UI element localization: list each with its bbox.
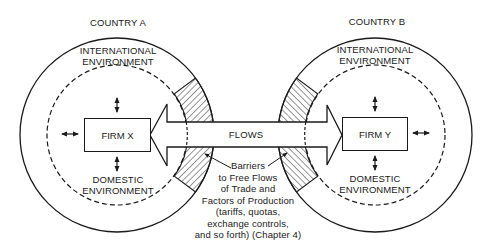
flows-label: FLOWS [216, 129, 276, 140]
firm-y-label: FIRM Y [359, 129, 391, 140]
barriers-label: Barriers to Free Flows of Trade and Fact… [186, 160, 310, 241]
country-a-domestic-label: DOMESTIC ENVIRONMENT [76, 174, 160, 196]
firm-x-label: FIRM X [101, 130, 133, 141]
country-b-title: COUNTRY B [345, 16, 409, 27]
country-b-international-label: INTERNATIONAL ENVIRONMENT [333, 44, 417, 66]
firm-y-box: FIRM Y [342, 117, 408, 151]
country-a-title: COUNTRY A [86, 17, 150, 28]
firm-x-box: FIRM X [84, 118, 151, 152]
country-b-domestic-label: DOMESTIC ENVIRONMENT [333, 173, 417, 195]
country-a-international-label: INTERNATIONAL ENVIRONMENT [76, 45, 160, 67]
